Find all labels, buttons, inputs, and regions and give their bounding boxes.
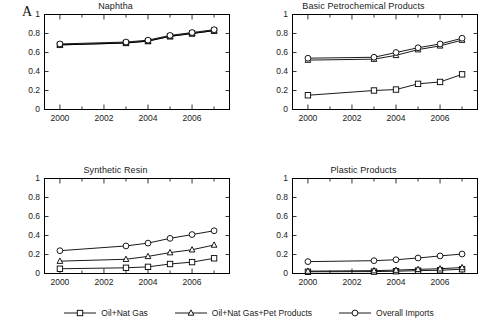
legend-item: Overall Imports	[338, 307, 434, 319]
legend-label: Overall Imports	[376, 308, 434, 318]
y-tick-label: 0.4	[250, 230, 288, 240]
series-circle	[57, 27, 217, 47]
y-tick-label: 0.8	[2, 192, 40, 202]
triangle-marker	[174, 307, 208, 319]
y-tick-label: 0.6	[250, 47, 288, 57]
legend: Oil+Nat GasOil+Nat Gas+Pet ProductsOvera…	[0, 302, 497, 324]
x-tick-label: 2006	[423, 277, 457, 287]
y-tick-label: 0.2	[2, 85, 40, 95]
y-tick-label: 0.6	[2, 211, 40, 221]
y-tick-label: 0.8	[250, 28, 288, 38]
circle-marker	[338, 307, 372, 319]
axes-svg	[292, 14, 480, 127]
axes-svg	[44, 14, 232, 127]
legend-label: Oil+Nat Gas+Pet Products	[212, 308, 312, 318]
y-tick-label: 0.6	[2, 47, 40, 57]
y-tick-label: 0.4	[2, 230, 40, 240]
y-tick-label: 0	[250, 104, 288, 114]
axes-svg	[44, 178, 232, 291]
x-tick-label: 2006	[175, 277, 209, 287]
square-marker	[63, 307, 97, 319]
y-tick-label: 1	[2, 9, 40, 19]
plot-area	[44, 178, 232, 291]
y-tick-label: 1	[2, 173, 40, 183]
y-tick-label: 0.2	[250, 85, 288, 95]
y-tick-label: 0.6	[250, 211, 288, 221]
y-tick-label: 0	[250, 268, 288, 278]
x-tick-label: 2006	[423, 113, 457, 123]
y-tick-label: 0.4	[250, 66, 288, 76]
x-tick-label: 2000	[43, 277, 77, 287]
figure-panel-a: A Naphtha 00.20.40.60.812000200220042006…	[0, 0, 497, 328]
plot-area	[44, 14, 232, 127]
x-tick-label: 2004	[379, 113, 413, 123]
series-circle	[305, 251, 465, 264]
y-tick-label: 0.8	[250, 192, 288, 202]
y-tick-label: 0	[2, 104, 40, 114]
series-square	[305, 72, 465, 98]
x-tick-label: 2004	[131, 277, 165, 287]
x-tick-label: 2002	[87, 277, 121, 287]
legend-item: Oil+Nat Gas	[63, 307, 148, 319]
x-tick-label: 2000	[291, 277, 325, 287]
x-tick-label: 2004	[379, 277, 413, 287]
x-tick-label: 2002	[87, 113, 121, 123]
axes-svg	[292, 178, 480, 291]
legend-item: Oil+Nat Gas+Pet Products	[174, 307, 312, 319]
legend-label: Oil+Nat Gas	[101, 308, 148, 318]
y-tick-label: 1	[250, 173, 288, 183]
y-tick-label: 1	[250, 9, 288, 19]
x-tick-label: 2004	[131, 113, 165, 123]
y-tick-label: 0.2	[2, 249, 40, 259]
y-tick-label: 0.2	[250, 249, 288, 259]
plot-area	[292, 178, 480, 291]
plot-area	[292, 14, 480, 127]
x-tick-label: 2000	[291, 113, 325, 123]
x-tick-label: 2006	[175, 113, 209, 123]
y-tick-label: 0.8	[2, 28, 40, 38]
x-tick-label: 2002	[335, 277, 369, 287]
x-tick-label: 2000	[43, 113, 77, 123]
x-tick-label: 2002	[335, 113, 369, 123]
y-tick-label: 0	[2, 268, 40, 278]
y-tick-label: 0.4	[2, 66, 40, 76]
